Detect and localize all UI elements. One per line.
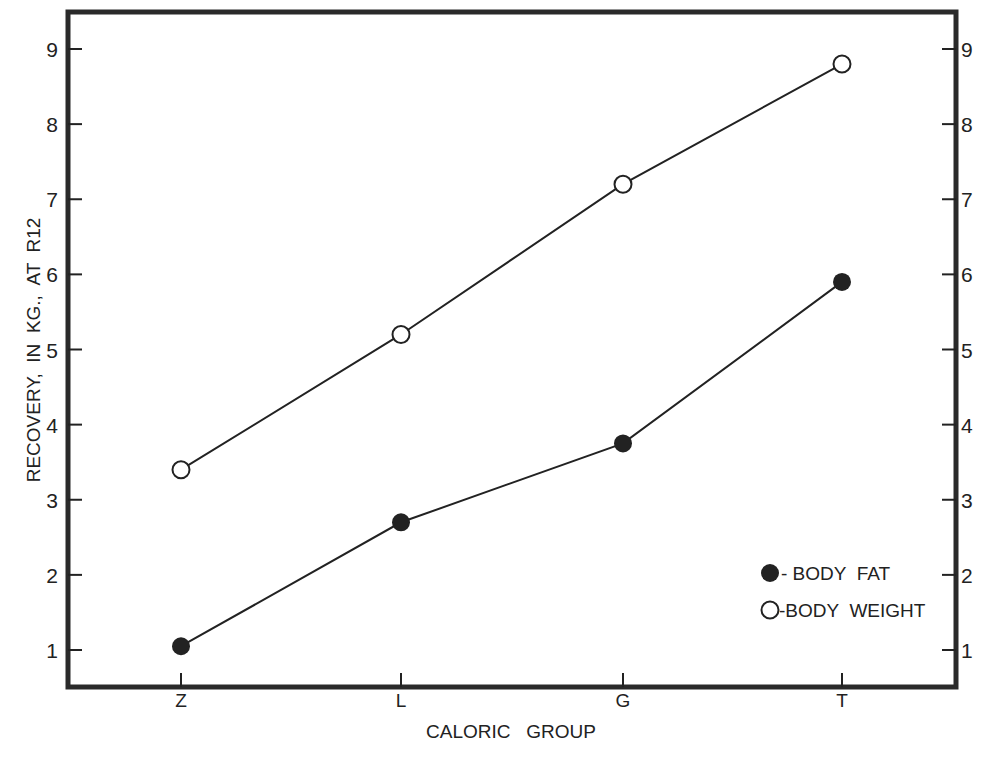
y-tick-label: 5 (46, 339, 58, 362)
y-tick-label: 1 (46, 639, 58, 662)
open-circle-marker (834, 56, 851, 73)
filled-circle-marker (392, 513, 410, 531)
filled-circle-marker (833, 273, 851, 291)
legend-label-body-weight: -BODY WEIGHT (779, 600, 926, 621)
y-tick-label: 9 (46, 38, 58, 61)
y-tick-label: 3 (46, 489, 58, 512)
y-tick-label: 4 (46, 414, 58, 437)
open-circle-marker (173, 461, 190, 478)
line-chart: 123456789 123456789 ZLGT CALORIC GROUP R… (0, 0, 987, 757)
body-fat-line (181, 282, 842, 646)
legend: - BODY FAT -BODY WEIGHT (761, 563, 926, 621)
x-tick-label: T (836, 690, 848, 711)
right-y-tick-label: 9 (961, 38, 973, 61)
y-tick-label: 2 (46, 564, 58, 587)
legend-label-body-fat: - BODY FAT (781, 563, 890, 584)
x-axis-label: CALORIC GROUP (426, 721, 596, 742)
right-y-tick-label: 7 (961, 188, 973, 211)
body-weight-line (181, 64, 842, 470)
open-circle-legend-icon (762, 602, 779, 619)
filled-circle-marker (614, 434, 632, 452)
right-y-tick-label: 4 (961, 414, 973, 437)
data-series (172, 56, 851, 656)
right-y-tick-label: 2 (961, 564, 973, 587)
plot-frame (68, 12, 956, 687)
plot-border (68, 12, 956, 687)
filled-circle-marker (172, 637, 190, 655)
x-axis-ticks: ZLGT (175, 673, 848, 711)
right-y-tick-label: 6 (961, 263, 973, 286)
y-tick-label: 8 (46, 113, 58, 136)
y-axis-label: RECOVERY, IN KG., AT R12 (23, 218, 44, 483)
open-circle-marker (393, 326, 410, 343)
filled-circle-legend-icon (761, 564, 779, 582)
right-y-tick-label: 3 (961, 489, 973, 512)
right-y-tick-label: 1 (961, 639, 973, 662)
y-tick-label: 6 (46, 263, 58, 286)
x-tick-label: L (396, 690, 407, 711)
right-y-tick-label: 8 (961, 113, 973, 136)
open-circle-marker (615, 176, 632, 193)
x-tick-label: G (616, 690, 631, 711)
y-tick-label: 7 (46, 188, 58, 211)
right-y-tick-label: 5 (961, 339, 973, 362)
x-tick-label: Z (175, 690, 187, 711)
left-y-axis-ticks: 123456789 (46, 38, 82, 662)
